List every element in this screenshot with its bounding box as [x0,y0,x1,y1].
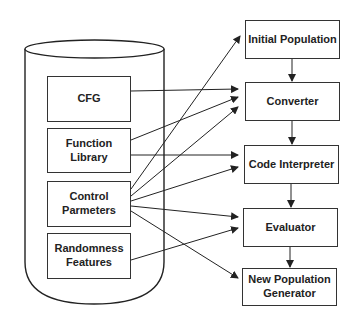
store-item-function-library: Function Library [47,128,131,173]
store-item-label: Randomness Features [54,242,123,270]
node-label: Code Interpreter [249,158,335,172]
node-label: Initial Population [248,33,337,47]
store-item-label: Control Parmeters [62,190,116,218]
node-converter: Converter [245,82,340,121]
node-initial-population: Initial Population [245,20,340,59]
store-item-label: Function Library [66,137,112,165]
node-new-population-generator: New Population Generator [242,268,337,306]
store-item-randomness-features: Randomness Features [47,233,131,279]
node-label: Converter [267,95,319,109]
node-code-interpreter: Code Interpreter [244,145,339,184]
node-label: New Population Generator [248,273,331,301]
store-item-label: CFG [77,92,100,106]
edges [131,36,240,278]
node-evaluator: Evaluator [243,208,338,247]
store-item-cfg: CFG [47,76,131,122]
node-label: Evaluator [265,221,315,235]
store-item-control-parameters: Control Parmeters [47,181,131,227]
